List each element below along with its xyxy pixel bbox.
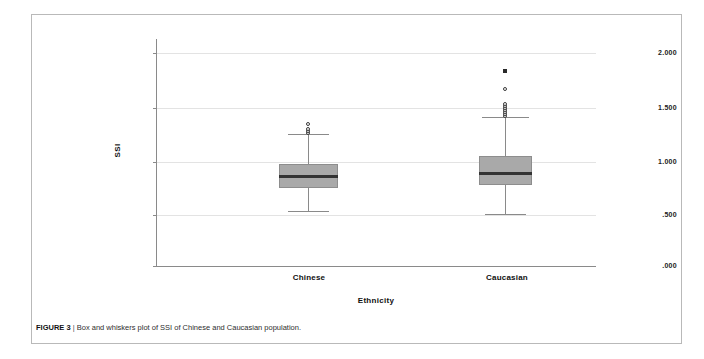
chinese-median-line: [279, 175, 338, 178]
figure-caption-label: FIGURE 3: [36, 323, 71, 332]
caucasian-lower-whisker-cap: [485, 214, 526, 215]
caucasian-extreme-outlier-point: [503, 69, 507, 73]
caucasian-outlier-point: [503, 102, 507, 106]
y-tick-mark-0000: [153, 266, 157, 267]
caucasian-median-line: [479, 172, 532, 175]
plot-area: 2.000 1.500 1.000 .500 .000 SSI: [32, 15, 683, 345]
y-tick-label-1000: 1.000: [565, 158, 683, 165]
gridline-1500: [156, 108, 596, 109]
chinese-outlier-point: [306, 127, 310, 131]
figure-container: 2.000 1.500 1.000 .500 .000 SSI: [0, 0, 704, 359]
figure-caption-separator: |: [73, 323, 75, 332]
chinese-upper-whisker-stem: [308, 134, 309, 164]
chinese-outlier-point: [306, 122, 310, 126]
x-tick-label-caucasian: Caucasian: [472, 273, 542, 282]
figure-panel: 2.000 1.500 1.000 .500 .000 SSI: [31, 14, 682, 344]
x-axis-title: Ethnicity: [156, 296, 596, 305]
caucasian-box: [479, 156, 532, 185]
y-tick-mark-1500: [153, 108, 157, 109]
y-axis-line: [156, 39, 157, 267]
y-tick-mark-0500: [153, 215, 157, 216]
gridline-2000: [156, 53, 596, 54]
y-axis-title: SSI: [113, 143, 122, 157]
y-tick-label-1500: 1.500: [565, 104, 683, 111]
caucasian-lower-whisker-stem: [505, 185, 506, 214]
caucasian-upper-whisker-stem: [505, 117, 506, 157]
figure-caption-text: Box and whiskers plot of SSI of Chinese …: [77, 323, 301, 332]
y-tick-mark-2000: [153, 53, 157, 54]
caucasian-outlier-point: [503, 87, 507, 91]
y-tick-label-0000: .000: [565, 262, 683, 269]
chinese-lower-whisker-stem: [308, 188, 309, 212]
y-tick-mark-1000: [153, 162, 157, 163]
figure-caption: FIGURE 3 | Box and whiskers plot of SSI …: [36, 322, 636, 333]
y-tick-label-0500: .500: [565, 211, 683, 218]
x-tick-label-chinese: Chinese: [278, 273, 340, 282]
y-tick-label-2000: 2.000: [565, 49, 683, 56]
x-axis-line: [156, 266, 596, 267]
gridline-0500: [156, 215, 596, 216]
chinese-lower-whisker-cap: [288, 211, 329, 212]
